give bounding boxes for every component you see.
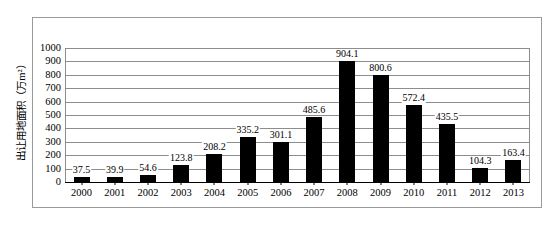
x-tick-label: 2011 bbox=[437, 187, 458, 198]
x-tick-mark bbox=[181, 182, 182, 185]
plot-area: 01002003004005006007008009001000 37.539.… bbox=[65, 48, 530, 182]
bar-value-label: 37.5 bbox=[72, 165, 92, 175]
x-tick-label: 2006 bbox=[270, 187, 291, 198]
bar-value-label: 123.8 bbox=[169, 153, 194, 163]
bar-slot: 435.5 bbox=[430, 48, 463, 182]
bar-slot: 800.6 bbox=[364, 48, 397, 182]
x-tick-mark bbox=[347, 182, 348, 185]
x-tick-mark bbox=[480, 182, 481, 185]
y-tick-label: 700 bbox=[31, 83, 61, 94]
bar-value-label: 335.2 bbox=[235, 125, 260, 135]
x-tick-label: 2001 bbox=[104, 187, 125, 198]
bar bbox=[505, 160, 521, 182]
bar bbox=[140, 175, 156, 182]
bar-slot: 572.4 bbox=[397, 48, 430, 182]
x-tick-label: 2004 bbox=[204, 187, 225, 198]
y-tick-label: 600 bbox=[31, 96, 61, 107]
y-tick-label: 200 bbox=[31, 150, 61, 161]
bar bbox=[339, 61, 355, 182]
bar-slot: 104.3 bbox=[464, 48, 497, 182]
y-tick-label: 0 bbox=[31, 177, 61, 188]
bar-value-label: 435.5 bbox=[435, 112, 460, 122]
y-axis-title: 出让用地面积（万m²） bbox=[14, 30, 30, 190]
x-tick-label: 2010 bbox=[403, 187, 424, 198]
x-tick-mark bbox=[247, 182, 248, 185]
bar-value-label: 485.6 bbox=[302, 105, 327, 115]
bar bbox=[373, 75, 389, 182]
bar-value-label: 104.3 bbox=[468, 156, 493, 166]
x-tick-mark bbox=[314, 182, 315, 185]
y-tick-label: 300 bbox=[31, 137, 61, 148]
bar bbox=[472, 168, 488, 182]
bar-value-label: 39.9 bbox=[105, 165, 125, 175]
x-tick-mark bbox=[280, 182, 281, 185]
bar bbox=[439, 124, 455, 182]
x-tick-mark bbox=[81, 182, 82, 185]
x-tick-label: 2008 bbox=[337, 187, 358, 198]
bar-slot: 123.8 bbox=[165, 48, 198, 182]
x-tick-mark bbox=[148, 182, 149, 185]
x-tick-mark bbox=[114, 182, 115, 185]
bar-value-label: 800.6 bbox=[368, 63, 393, 73]
y-tick-label: 800 bbox=[31, 70, 61, 81]
bar-value-label: 208.2 bbox=[202, 142, 227, 152]
x-tick-label: 2013 bbox=[503, 187, 524, 198]
bar-slot: 37.5 bbox=[65, 48, 98, 182]
bar-slot: 39.9 bbox=[98, 48, 131, 182]
y-tick-label: 500 bbox=[31, 110, 61, 121]
bar-slot: 163.4 bbox=[497, 48, 530, 182]
x-tick-label: 2000 bbox=[71, 187, 92, 198]
bar bbox=[240, 137, 256, 182]
bar bbox=[206, 154, 222, 182]
y-tick-label: 900 bbox=[31, 56, 61, 67]
bar-value-label: 301.1 bbox=[269, 130, 294, 140]
bar-slot: 54.6 bbox=[131, 48, 164, 182]
y-tick-label: 1000 bbox=[31, 43, 61, 54]
bar-value-label: 54.6 bbox=[138, 163, 158, 173]
bar bbox=[306, 117, 322, 182]
bar-value-label: 163.4 bbox=[501, 148, 526, 158]
bar-slot: 208.2 bbox=[198, 48, 231, 182]
x-tick-label: 2005 bbox=[237, 187, 258, 198]
bar bbox=[406, 105, 422, 182]
x-tick-label: 2002 bbox=[138, 187, 159, 198]
x-tick-mark bbox=[446, 182, 447, 185]
bar-slot: 485.6 bbox=[298, 48, 331, 182]
y-tick-label: 100 bbox=[31, 163, 61, 174]
x-tick-mark bbox=[214, 182, 215, 185]
y-tick-label: 400 bbox=[31, 123, 61, 134]
bar-slot: 904.1 bbox=[331, 48, 364, 182]
bar-value-label: 904.1 bbox=[335, 49, 360, 59]
gridline bbox=[65, 182, 530, 183]
x-tick-label: 2003 bbox=[171, 187, 192, 198]
x-tick-label: 2009 bbox=[370, 187, 391, 198]
bar bbox=[273, 142, 289, 182]
x-tick-mark bbox=[413, 182, 414, 185]
bar-value-label: 572.4 bbox=[401, 93, 426, 103]
x-tick-mark bbox=[380, 182, 381, 185]
x-tick-mark bbox=[513, 182, 514, 185]
x-tick-label: 2007 bbox=[304, 187, 325, 198]
bar-slot: 301.1 bbox=[264, 48, 297, 182]
bar bbox=[173, 165, 189, 182]
bar-slot: 335.2 bbox=[231, 48, 264, 182]
x-tick-label: 2012 bbox=[470, 187, 491, 198]
